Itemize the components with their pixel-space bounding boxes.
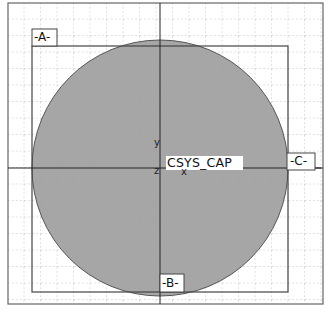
- axis-y-label: y: [154, 137, 160, 148]
- view-label-c-text: -C-: [290, 154, 307, 168]
- axis-x-label: x: [181, 166, 187, 177]
- view-label-b-text: -B-: [162, 276, 178, 290]
- drawing-canvas: [0, 0, 330, 315]
- view-label-a-text: -A-: [34, 30, 50, 44]
- axis-z-label: z: [154, 165, 159, 176]
- csys-label[interactable]: CSYS_CAP: [167, 155, 232, 170]
